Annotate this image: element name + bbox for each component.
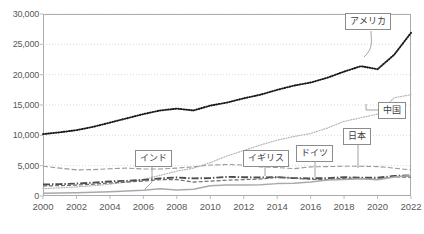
annotation-uk[interactable]: イギリス: [243, 150, 289, 167]
y-axis-tick-label: 15,000: [0, 100, 39, 110]
annotation-america[interactable]: アメリカ: [345, 13, 391, 30]
annotation-germany[interactable]: ドイツ: [296, 145, 333, 162]
annotation-india[interactable]: インド: [135, 150, 172, 167]
series-line: [43, 164, 411, 169]
y-axis-tick-label: 5,000: [0, 161, 39, 171]
y-axis-tick-marks: [40, 14, 43, 196]
chart-canvas: [0, 0, 424, 234]
y-axis-tick-label: 25,000: [0, 39, 39, 49]
y-axis-tick-label: 10,000: [0, 130, 39, 140]
x-axis-tick-label: 2022: [391, 201, 424, 212]
data-series-layer: [43, 33, 411, 193]
y-axis-tick-label: 0: [0, 191, 39, 201]
y-axis-tick-label: 20,000: [0, 70, 39, 80]
series-line: [43, 175, 411, 184]
y-axis-tick-label: 30,000: [0, 9, 39, 19]
annotation-japan[interactable]: 日本: [343, 128, 371, 145]
x-axis-tick-marks: [43, 196, 411, 199]
annotation-china[interactable]: 中国: [378, 102, 406, 119]
line-chart: 05,00010,00015,00020,00025,00030,000 200…: [0, 0, 424, 234]
